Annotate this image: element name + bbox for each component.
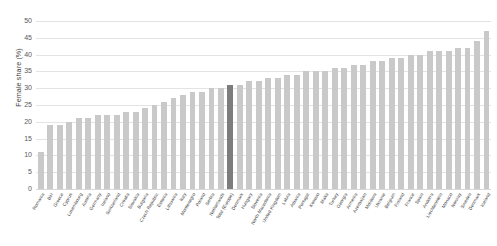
bar-slot xyxy=(453,21,462,189)
x-label-slot: Denmark xyxy=(235,191,244,246)
x-label-slot: Spain xyxy=(415,191,424,246)
x-label-slot: Total (Europe) xyxy=(226,191,235,246)
x-label-slot: Azerbaijan xyxy=(358,191,367,246)
bar xyxy=(209,88,215,189)
bar-slot xyxy=(235,21,244,189)
bar-slot xyxy=(245,21,254,189)
x-label-slot: Greece xyxy=(55,191,64,246)
x-label-slot: Andorra xyxy=(425,191,434,246)
bar xyxy=(474,41,480,189)
x-label-slot: Malta xyxy=(321,191,330,246)
y-axis-tick-label: 20 xyxy=(10,118,32,125)
bar-slot xyxy=(311,21,320,189)
bar xyxy=(237,85,243,189)
bar xyxy=(408,55,414,189)
bar-slot xyxy=(150,21,159,189)
x-label-slot: Armenia xyxy=(349,191,358,246)
bar-slot xyxy=(64,21,73,189)
x-label-slot: Czech Republic xyxy=(150,191,159,246)
bar-slot xyxy=(368,21,377,189)
bar-slot xyxy=(302,21,311,189)
bar-slot xyxy=(349,21,358,189)
y-axis-tick-label: 0 xyxy=(10,185,32,192)
x-label-slot: Portugal xyxy=(302,191,311,246)
x-label-slot: Ukraine xyxy=(377,191,386,246)
bar xyxy=(161,102,167,189)
bar xyxy=(171,98,177,189)
bar xyxy=(322,71,328,189)
bar xyxy=(85,118,91,189)
bar-slot xyxy=(207,21,216,189)
bar-slot xyxy=(226,21,235,189)
y-axis-tick-label: 10 xyxy=(10,151,32,158)
bar xyxy=(142,108,148,189)
bar xyxy=(199,92,205,189)
bar xyxy=(265,78,271,189)
bar-slot xyxy=(321,21,330,189)
x-label-slot: Montenegro xyxy=(188,191,197,246)
bar-slot xyxy=(36,21,45,189)
bar xyxy=(455,48,461,189)
x-label-slot: Georgia xyxy=(340,191,349,246)
y-axis-tick-label: 5 xyxy=(10,168,32,175)
bar xyxy=(351,65,357,189)
bar xyxy=(303,71,309,189)
bar xyxy=(133,112,139,189)
bar xyxy=(180,95,186,189)
bar xyxy=(227,85,233,189)
plot-area xyxy=(36,21,491,189)
bar xyxy=(446,51,452,189)
bar xyxy=(256,81,262,189)
y-axis-tick-label: 30 xyxy=(10,84,32,91)
y-axis-tick-label: 50 xyxy=(10,17,32,24)
bar-slot xyxy=(55,21,64,189)
bar-slot xyxy=(415,21,424,189)
x-label-slot: Turkey xyxy=(330,191,339,246)
x-label-slot: Belgium xyxy=(387,191,396,246)
bar-slot xyxy=(197,21,206,189)
bar-slot xyxy=(425,21,434,189)
bar xyxy=(417,55,423,189)
x-label-slot: Austria xyxy=(83,191,92,246)
bar-slot xyxy=(178,21,187,189)
bar-slot xyxy=(121,21,130,189)
bar-slot xyxy=(340,21,349,189)
bar-slot xyxy=(102,21,111,189)
gridline xyxy=(36,189,491,190)
bar xyxy=(104,115,110,189)
bar xyxy=(389,58,395,189)
x-label-slot: Cyprus xyxy=(64,191,73,246)
bar xyxy=(76,118,82,189)
bar-slot xyxy=(188,21,197,189)
x-axis-tick-label: Romania xyxy=(31,192,45,211)
x-label-slot: BiH xyxy=(45,191,54,246)
y-axis-tick-label: 25 xyxy=(10,101,32,108)
x-label-slot: Estonia xyxy=(159,191,168,246)
bar xyxy=(152,105,158,189)
x-label-slot: Albania xyxy=(292,191,301,246)
y-axis-tick-label: 35 xyxy=(10,67,32,74)
bar-slot xyxy=(434,21,443,189)
bar-slot xyxy=(93,21,102,189)
x-label-slot: Luxembourg xyxy=(74,191,83,246)
bar-chart: Female share (%) 05101520253035404550 Ro… xyxy=(0,0,497,246)
bar-slot xyxy=(273,21,282,189)
bar xyxy=(246,81,252,189)
x-label-slot: Kosovo xyxy=(311,191,320,246)
bar-slot xyxy=(482,21,491,189)
x-label-slot: Romania xyxy=(36,191,45,246)
x-label-slot: Germany xyxy=(93,191,102,246)
x-label-slot: Monaco xyxy=(444,191,453,246)
bar xyxy=(114,115,120,189)
bar-slot xyxy=(472,21,481,189)
bar-slot xyxy=(45,21,54,189)
x-axis-tick-label: BiH xyxy=(46,192,54,201)
x-label-slot: Croatia xyxy=(121,191,130,246)
bar-slot xyxy=(112,21,121,189)
bar xyxy=(66,122,72,189)
x-label-slot: Norway xyxy=(453,191,462,246)
bar-slot xyxy=(396,21,405,189)
bar xyxy=(57,125,63,189)
y-axis-tick-label: 40 xyxy=(10,51,32,58)
bar xyxy=(370,61,376,189)
